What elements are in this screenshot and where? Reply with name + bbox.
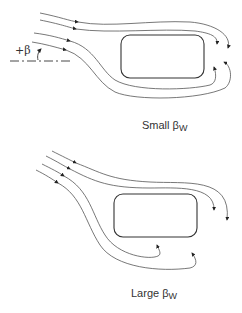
streamline-top-1 xyxy=(40,13,78,22)
caption-small-beta-sub: W xyxy=(179,123,188,133)
bluff-body-top xyxy=(121,35,204,78)
small-beta-diagram xyxy=(10,13,231,98)
angle-arrow xyxy=(38,49,41,60)
large-beta-diagram xyxy=(36,151,227,269)
flow-diagram xyxy=(0,0,242,313)
streamline-bottom-3 xyxy=(42,164,64,176)
streamline-top-2 xyxy=(40,20,76,29)
caption-small-beta: Small βW xyxy=(142,119,187,133)
angle-label: +β xyxy=(15,44,31,57)
streamline-top-3 xyxy=(34,33,70,41)
streamline-bottom-4 xyxy=(36,170,58,183)
streamline-top-4 xyxy=(32,42,66,50)
caption-large-beta-sub: W xyxy=(169,291,178,301)
caption-large-beta: Large βW xyxy=(131,287,177,301)
bluff-body-bottom xyxy=(114,194,197,237)
caption-large-beta-main: Large β xyxy=(131,287,169,299)
caption-small-beta-main: Small β xyxy=(142,119,179,131)
